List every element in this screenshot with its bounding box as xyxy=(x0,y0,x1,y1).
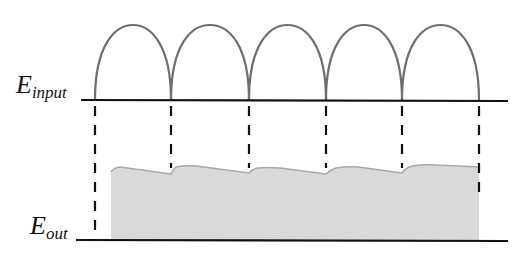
input-waveform xyxy=(95,25,479,100)
input-baseline xyxy=(81,100,508,101)
output-label-sub: out xyxy=(46,224,68,243)
output-shaded-region xyxy=(111,165,479,240)
output-label: Eout xyxy=(30,211,68,241)
output-label-main: E xyxy=(30,211,46,240)
output-baseline xyxy=(76,240,508,241)
input-label-sub: input xyxy=(32,83,67,102)
hump-3 xyxy=(249,25,326,100)
hump-4 xyxy=(326,25,402,100)
input-label: Einput xyxy=(16,70,67,100)
input-label-main: E xyxy=(16,70,32,99)
rectifier-diagram xyxy=(0,0,527,256)
hump-5 xyxy=(402,25,479,100)
hump-2 xyxy=(171,25,249,100)
hump-1 xyxy=(95,25,171,100)
